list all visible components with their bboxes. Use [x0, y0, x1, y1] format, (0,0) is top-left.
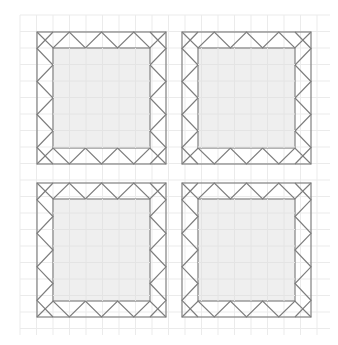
bottom-sawtooth [37, 301, 166, 317]
right-sawtooth [295, 183, 311, 317]
quilt-blocks [37, 32, 311, 317]
quilt-block-bottom-left [37, 183, 166, 317]
center-square [198, 199, 295, 301]
bottom-sawtooth [37, 148, 166, 164]
quilt-diagram [0, 0, 338, 345]
left-sawtooth [37, 183, 53, 317]
top-sawtooth [37, 32, 166, 48]
left-sawtooth [182, 183, 198, 317]
